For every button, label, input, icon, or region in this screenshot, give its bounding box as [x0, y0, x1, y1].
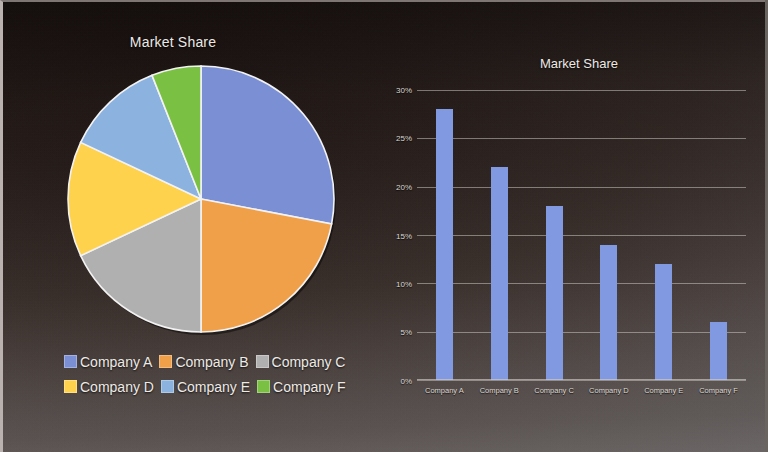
legend-swatch-icon — [64, 380, 77, 393]
pie-chart-title: Market Share — [8, 34, 338, 50]
bar[interactable] — [436, 109, 453, 380]
legend-swatch-icon — [159, 355, 172, 368]
bar[interactable] — [546, 206, 563, 380]
legend-item[interactable]: Company C — [256, 350, 346, 373]
legend-item-label: Company D — [80, 379, 154, 395]
y-axis-tick-label: 20% — [396, 182, 412, 191]
x-axis-label: Company D — [581, 386, 636, 395]
y-axis-tick-label: 25% — [396, 134, 412, 143]
legend-item-label: Company B — [175, 354, 248, 370]
y-axis-tick-label: 30% — [396, 86, 412, 95]
bar-chart-panel: Market Share 30%25%20%15%10%5%0% Company… — [386, 48, 760, 408]
bar-column — [472, 90, 527, 380]
legend-swatch-icon — [161, 380, 174, 393]
legend-swatch-icon — [64, 355, 77, 368]
y-axis-tick-label: 5% — [400, 328, 412, 337]
bar-column — [527, 90, 582, 380]
bar-column — [636, 90, 691, 380]
x-axis-label: Company C — [527, 386, 582, 395]
legend-item-label: Company A — [80, 354, 152, 370]
legend-swatch-icon — [256, 355, 269, 368]
legend-item-label: Company E — [177, 379, 250, 395]
pie-chart-graphic[interactable] — [65, 63, 337, 335]
legend-item[interactable]: Company E — [161, 375, 250, 398]
legend-swatch-icon — [257, 380, 270, 393]
bar-chart-x-axis — [417, 379, 746, 380]
pie-chart-legend: Company ACompany BCompany CCompany DComp… — [64, 350, 364, 398]
y-axis-tick-label: 10% — [396, 279, 412, 288]
legend-item-label: Company C — [272, 354, 346, 370]
pie-slice[interactable] — [201, 66, 334, 224]
bar-column — [581, 90, 636, 380]
bar[interactable] — [491, 167, 508, 380]
chart-screenshot: Market Share Company ACompany BCompany C… — [0, 0, 768, 452]
legend-item[interactable]: Company B — [159, 350, 248, 373]
legend-item[interactable]: Company F — [257, 375, 345, 398]
bar[interactable] — [600, 245, 617, 380]
legend-item[interactable]: Company A — [64, 350, 152, 373]
gridline: 0% — [417, 380, 746, 381]
pie-svg — [65, 63, 337, 335]
bar-column — [691, 90, 746, 380]
pie-chart-panel: Market Share Company ACompany BCompany C… — [8, 24, 376, 442]
legend-item[interactable]: Company D — [64, 375, 154, 398]
bar-chart-plot-area: 30%25%20%15%10%5%0% — [417, 90, 746, 380]
y-axis-tick-label: 15% — [396, 231, 412, 240]
bar-column — [417, 90, 472, 380]
bar[interactable] — [655, 264, 672, 380]
bar[interactable] — [710, 322, 727, 380]
x-axis-label: Company A — [417, 386, 472, 395]
bar-chart-title: Market Share — [414, 56, 744, 71]
x-axis-label: Company E — [636, 386, 691, 395]
y-axis-tick-label: 0% — [400, 377, 412, 386]
bar-chart-bars — [417, 90, 746, 380]
x-axis-label: Company B — [472, 386, 527, 395]
legend-item-label: Company F — [273, 379, 345, 395]
bar-chart-x-axis-labels: Company ACompany BCompany CCompany DComp… — [417, 386, 746, 395]
x-axis-label: Company F — [691, 386, 746, 395]
